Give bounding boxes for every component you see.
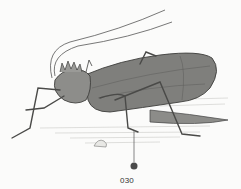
crest-spike xyxy=(86,60,92,72)
insect-body xyxy=(85,53,217,112)
pebble xyxy=(94,140,107,147)
spiny-crest xyxy=(60,61,82,72)
ovipositor xyxy=(150,110,228,124)
callout-marker xyxy=(131,163,138,170)
insect-illustration xyxy=(0,0,241,189)
figure-label: 030 xyxy=(120,176,134,185)
